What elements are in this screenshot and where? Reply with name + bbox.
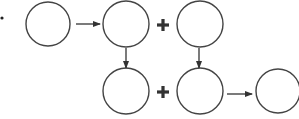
blank-circle-2: [103, 1, 149, 47]
bullet-dot: [0, 16, 3, 19]
arrows: [76, 24, 252, 94]
reaction-diagram: [0, 0, 299, 119]
bullet-point: [0, 16, 3, 19]
blank-circle-3: [177, 1, 223, 47]
blank-circle-6: [256, 69, 299, 113]
plus-signs: [157, 19, 169, 98]
blank-circle-1: [26, 2, 70, 46]
plus-icon-2: [157, 86, 169, 98]
plus-icon-1: [157, 19, 169, 31]
blank-circle-5: [177, 68, 223, 114]
blank-circle-4: [103, 68, 149, 114]
